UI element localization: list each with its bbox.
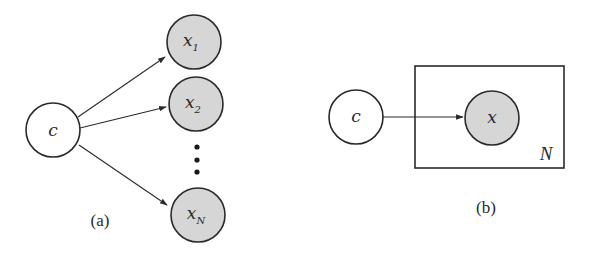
node-c-a: c: [26, 103, 80, 157]
node-var: x: [187, 203, 197, 223]
edge-c-x2: [80, 107, 166, 128]
node-x: x: [465, 91, 519, 145]
node-x1: x1: [167, 15, 221, 69]
node-var: x: [185, 92, 195, 112]
caption-a: (a): [91, 211, 110, 230]
node-label: c: [351, 106, 361, 126]
caption-b: (b): [476, 198, 496, 217]
node-var: x: [183, 30, 193, 50]
node-subscript: N: [195, 215, 206, 226]
node-xN: xN: [171, 188, 225, 242]
panel-a: c x1 x2 xN (a): [26, 15, 225, 242]
graphical-model-figure: c x1 x2 xN (a) N: [0, 0, 595, 261]
plate-label: N: [539, 143, 554, 164]
node-label: c: [48, 120, 58, 140]
node-subscript: 1: [193, 42, 199, 53]
node-label: x: [487, 107, 497, 127]
vertical-ellipsis-icon: [194, 144, 199, 174]
panel-b: N c x (b): [329, 66, 564, 217]
node-x2: x2: [169, 77, 223, 131]
edge-c-x1: [78, 57, 165, 117]
edge-c-xN: [79, 145, 167, 205]
node-subscript: 2: [194, 104, 201, 115]
node-c-b: c: [329, 90, 383, 144]
